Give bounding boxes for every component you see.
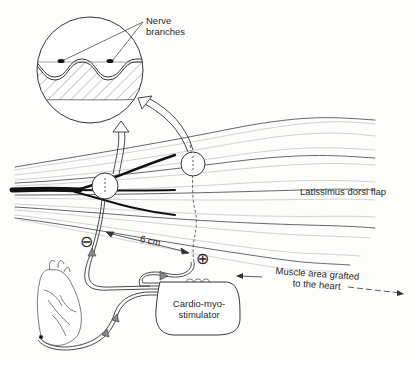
- electrode-positive-site: [181, 152, 205, 176]
- magnified-inset: [30, 17, 150, 123]
- stimulator-label-line2: stimulator: [160, 309, 238, 320]
- stimulator-label-line1: Cardio-myo-: [160, 298, 238, 309]
- electrode-negative-site: [92, 173, 118, 199]
- nerve-label-line1: Nerve: [146, 15, 185, 26]
- nerve-branches-label: Nerve branches: [146, 15, 185, 37]
- nerve-branch-dot: [107, 59, 114, 63]
- heart-illustration: [37, 260, 81, 345]
- latissimus-dorsi-label: Latissimus dorsi flap: [300, 186, 386, 197]
- current-direction-arrows: [88, 248, 168, 337]
- nerve-label-line2: branches: [146, 26, 185, 37]
- nerve-branch-dot: [58, 59, 65, 63]
- positive-electrode-symbol: ⊕: [196, 253, 209, 264]
- stimulator-label: Cardio-myo- stimulator: [160, 298, 238, 320]
- negative-electrode-symbol: ⊖: [80, 236, 93, 247]
